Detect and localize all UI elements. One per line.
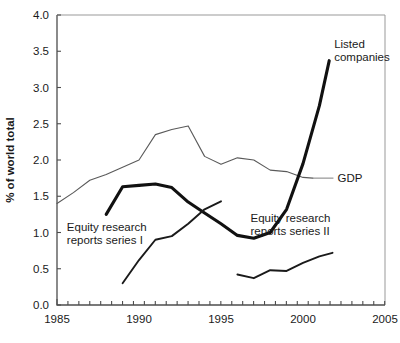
annotation-series-two-line2: reports series II	[251, 225, 330, 237]
y-tick-label: 2.5	[33, 118, 49, 130]
x-axis-tick-labels: 19851990199520002005	[44, 313, 398, 325]
x-tick-label: 1995	[208, 313, 234, 325]
y-tick-label: 3.5	[33, 45, 49, 57]
y-tick-label: 0.0	[33, 299, 49, 311]
annotation-gdp: GDP	[337, 172, 362, 184]
series-line-gdp	[57, 126, 313, 204]
x-tick-label: 1990	[126, 313, 152, 325]
annotation-listed-companies-line1: Listed	[334, 38, 365, 50]
y-axis-tick-labels: 0.00.51.01.52.02.53.03.54.0	[33, 9, 49, 311]
y-axis-title-label: % of world total	[4, 117, 16, 203]
line-chart-canvas: 19851990199520002005 0.00.51.01.52.02.53…	[0, 0, 400, 343]
annotation-listed-companies-line2: companies	[334, 51, 390, 63]
y-tick-label: 1.0	[33, 227, 49, 239]
y-tick-label: 0.5	[33, 263, 49, 275]
y-tick-label: 2.0	[33, 154, 49, 166]
chart-figure: 19851990199520002005 0.00.51.01.52.02.53…	[0, 0, 400, 343]
x-tick-label: 2000	[290, 313, 316, 325]
annotation-series-one-line2: reports series I	[67, 234, 143, 246]
data-series	[57, 61, 333, 284]
series-annotations: ListedcompaniesGDPEquity researchreports…	[67, 38, 390, 246]
series-line-equity-research-reports-series-ii	[237, 253, 332, 278]
y-tick-label: 4.0	[33, 9, 49, 21]
x-tick-label: 1985	[44, 313, 70, 325]
y-tick-label: 3.0	[33, 82, 49, 94]
y-tick-label: 1.5	[33, 190, 49, 202]
annotation-series-one-line1: Equity research	[67, 221, 147, 233]
annotation-series-two-line1: Equity research	[251, 212, 331, 224]
x-tick-label: 2005	[372, 313, 398, 325]
y-axis-title: % of world total	[4, 117, 16, 203]
